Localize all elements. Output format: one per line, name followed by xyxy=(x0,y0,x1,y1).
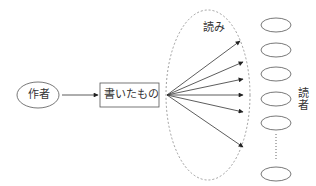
writing-label: 書いたもの xyxy=(104,89,159,100)
reader-node xyxy=(261,116,291,130)
reading-arrows xyxy=(167,41,243,147)
readers-label: 読 者 xyxy=(297,88,309,112)
author-label: 作者 xyxy=(28,89,50,100)
reader-node xyxy=(261,167,291,181)
reader-node xyxy=(261,18,291,32)
reader-nodes xyxy=(261,18,291,181)
reader-node xyxy=(261,67,291,81)
reader-node xyxy=(261,92,291,106)
reader-node xyxy=(261,43,291,57)
readers-label-line2: 者 xyxy=(297,100,309,112)
reading-label: 読み xyxy=(203,22,225,33)
